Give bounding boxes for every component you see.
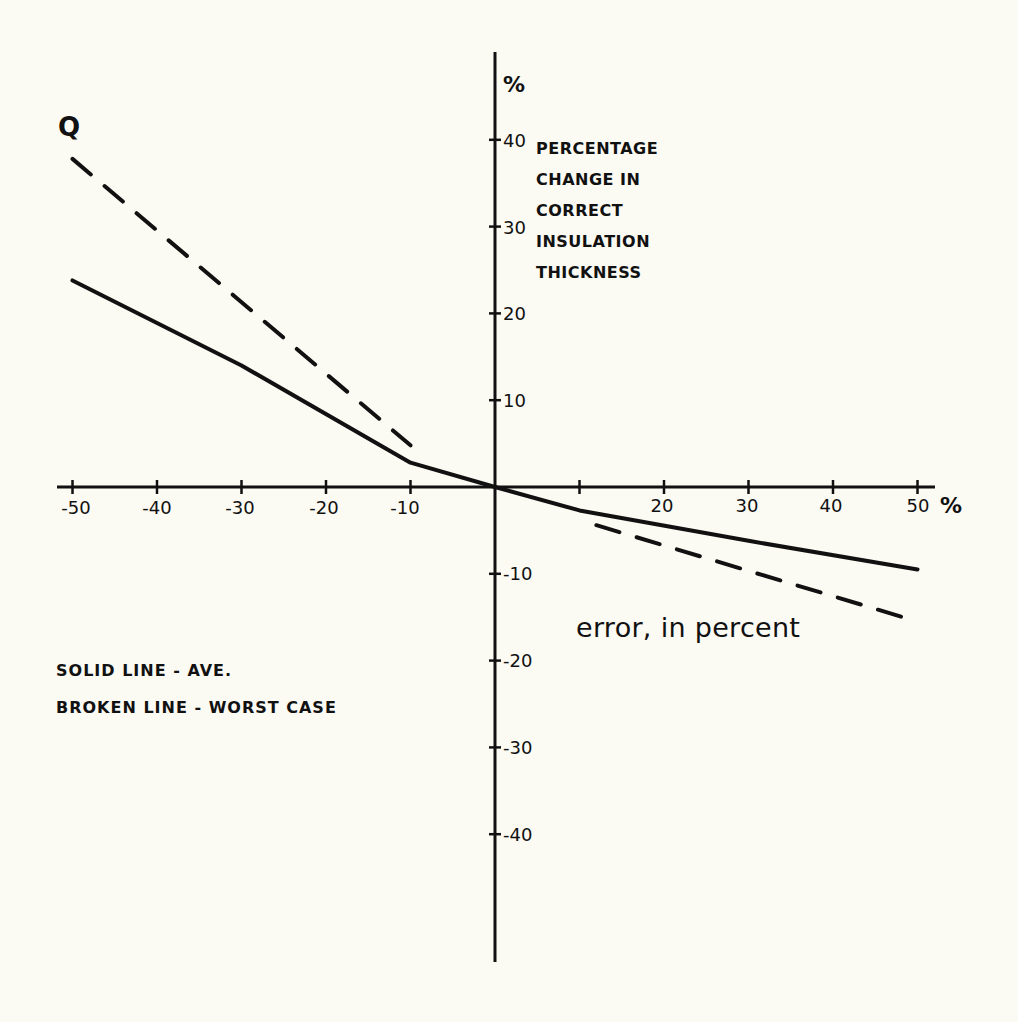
x-tick-label: -10 bbox=[390, 499, 419, 517]
y-tick-label: -20 bbox=[503, 652, 532, 670]
y-tick-label: -10 bbox=[503, 565, 532, 583]
y-axis-title-line: INSULATION bbox=[536, 226, 658, 257]
y-tick-label: 10 bbox=[503, 392, 526, 410]
y-axis-title: PERCENTAGE CHANGE IN CORRECT INSULATION … bbox=[536, 133, 658, 288]
x-tick-label: -20 bbox=[309, 499, 338, 517]
y-axis-title-line: CORRECT bbox=[536, 195, 658, 226]
x-tick-label: 30 bbox=[736, 497, 759, 515]
y-tick-label: -30 bbox=[503, 739, 532, 757]
worst-case-line bbox=[73, 159, 411, 445]
y-tick-label: 30 bbox=[503, 219, 526, 237]
worst-case-line bbox=[596, 525, 917, 621]
y-unit-label: % bbox=[503, 74, 525, 96]
x-tick-label: -50 bbox=[61, 499, 90, 517]
legend: SOLID LINE - AVE. BROKEN LINE - WORST CA… bbox=[56, 652, 337, 726]
y-tick-label: 20 bbox=[503, 305, 526, 323]
x-tick-label: 40 bbox=[820, 497, 843, 515]
x-tick-label: -40 bbox=[142, 499, 171, 517]
y-axis-title-line: CHANGE IN bbox=[536, 164, 658, 195]
x-tick-label: 50 bbox=[907, 497, 930, 515]
axes bbox=[57, 52, 935, 962]
x-tick-label: 20 bbox=[651, 497, 674, 515]
x-axis-title: error, in percent bbox=[576, 614, 800, 641]
y-axis-title-line: THICKNESS bbox=[536, 257, 658, 288]
y-tick-label: -40 bbox=[503, 826, 532, 844]
y-axis-title-line: PERCENTAGE bbox=[536, 133, 658, 164]
legend-item-solid: SOLID LINE - AVE. bbox=[56, 652, 337, 689]
curve-label-q: Q bbox=[58, 114, 80, 140]
x-tick-label: -30 bbox=[225, 499, 254, 517]
y-tick-label: 40 bbox=[503, 132, 526, 150]
x-unit-label: % bbox=[940, 495, 962, 517]
legend-item-broken: BROKEN LINE - WORST CASE bbox=[56, 689, 337, 726]
